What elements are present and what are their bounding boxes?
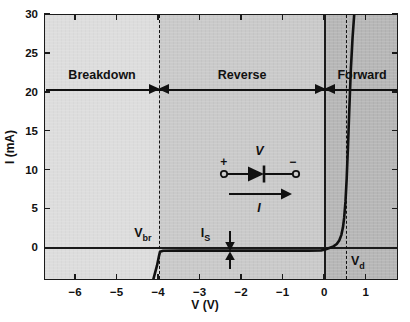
y-tick-mark	[44, 169, 50, 171]
x-tick-mark	[116, 274, 118, 280]
y-tick-mark	[392, 169, 398, 171]
region-label-forward: Forward	[325, 68, 398, 82]
x-tick-label-3: −3	[193, 286, 206, 298]
y-tick-mark	[392, 130, 398, 132]
region-label-reverse: Reverse	[159, 68, 325, 82]
y-tick-label-6: 30	[8, 8, 38, 20]
y-tick-label-1: 5	[8, 202, 38, 214]
arrow-shaft	[159, 89, 325, 91]
y-tick-mark	[392, 13, 398, 15]
y-tick-mark	[44, 91, 50, 93]
arrow-shaft	[325, 89, 398, 91]
diode-schematic: V + − I	[219, 161, 301, 211]
x-tick-mark	[365, 14, 367, 20]
vbr-subscript: br	[142, 233, 151, 243]
x-tick-mark	[74, 274, 76, 280]
y-tick-mark	[44, 130, 50, 132]
plot-area: Breakdown Reverse Forward Vbr Vd IS V + …	[44, 14, 398, 280]
x-tick-mark	[282, 274, 284, 280]
x-tick-mark	[116, 14, 118, 20]
x-tick-mark	[199, 274, 201, 280]
diode-iv-characteristic-figure: Breakdown Reverse Forward Vbr Vd IS V + …	[0, 0, 410, 322]
breakdown-voltage-label: Vbr	[134, 226, 151, 243]
x-tick-mark	[323, 14, 325, 20]
y-tick-mark	[44, 247, 50, 249]
y-tick-mark	[392, 208, 398, 210]
x-tick-mark	[240, 14, 242, 20]
y-tick-label-0: 0	[8, 241, 38, 253]
schematic-current-label: I	[257, 201, 260, 215]
x-tick-mark	[323, 274, 325, 280]
arrow-shaft	[46, 89, 159, 91]
x-tick-label-4: −2	[235, 286, 248, 298]
arrowhead-left	[324, 84, 335, 94]
is-subscript: S	[204, 233, 210, 243]
y-tick-label-4: 20	[8, 86, 38, 98]
vd-subscript: d	[359, 261, 365, 271]
y-tick-mark	[44, 52, 50, 54]
arrowhead-left	[158, 84, 169, 94]
x-tick-mark	[199, 14, 201, 20]
region-label-breakdown: Breakdown	[45, 68, 159, 82]
forward-voltage-label: Vd	[351, 254, 365, 271]
x-tick-mark	[240, 274, 242, 280]
x-tick-mark	[282, 14, 284, 20]
x-tick-label-0: −6	[69, 286, 82, 298]
x-axis-label: V (V)	[0, 298, 410, 312]
y-tick-mark	[44, 13, 50, 15]
x-tick-mark	[365, 274, 367, 280]
schematic-voltage-label: V	[255, 144, 263, 158]
saturation-current-label: IS	[201, 226, 211, 243]
x-tick-mark	[157, 14, 159, 20]
y-tick-mark	[392, 91, 398, 93]
x-tick-mark	[157, 274, 159, 280]
x-tick-label-6: 0	[321, 286, 327, 298]
schematic-minus-sign: −	[289, 155, 296, 169]
x-tick-label-1: −5	[110, 286, 123, 298]
y-axis-label: I (mA)	[3, 117, 17, 177]
saturation-current-double-arrow	[221, 230, 239, 270]
x-tick-mark	[74, 14, 76, 20]
x-tick-label-7: 1	[362, 286, 368, 298]
x-tick-label-5: −1	[276, 286, 289, 298]
vd-symbol: V	[351, 254, 359, 268]
x-tick-label-2: −4	[152, 286, 165, 298]
y-tick-mark	[44, 208, 50, 210]
y-tick-mark	[392, 247, 398, 249]
schematic-plus-sign: +	[220, 155, 227, 169]
y-tick-mark	[392, 52, 398, 54]
y-tick-label-5: 25	[8, 47, 38, 59]
